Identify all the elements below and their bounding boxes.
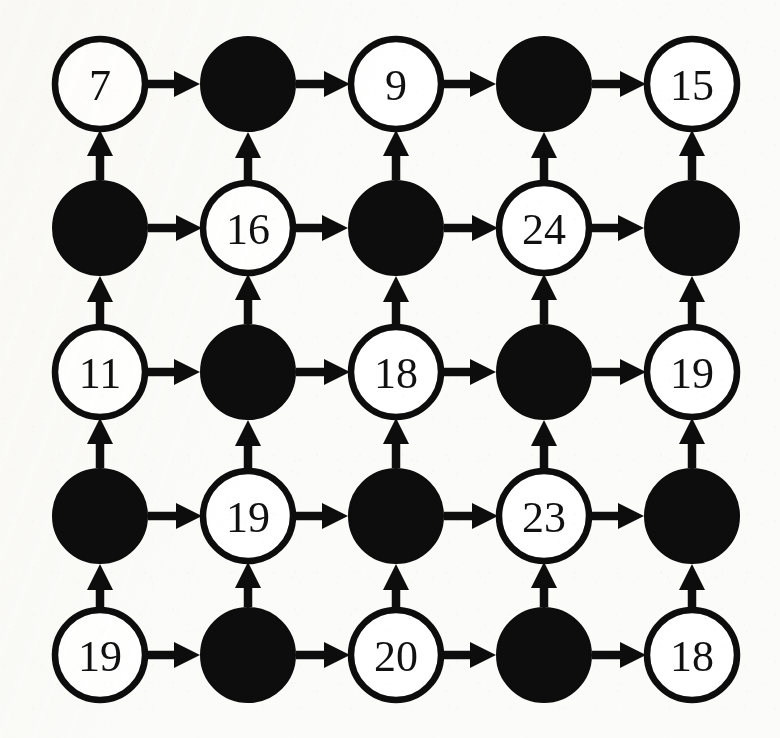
graph-node-filled[interactable] [497,608,591,702]
edge-horizontal-r5c2-to-r5c3 [296,642,350,668]
graph-node-filled[interactable] [201,608,295,702]
edge-horizontal-r5c1-to-r5c2 [146,642,200,668]
edge-vertical-r3c5-to-r2c5 [679,276,705,326]
graph-node-open[interactable]: 19 [647,327,737,417]
node-value-label: 11 [79,349,121,398]
node-value-label: 24 [522,205,566,254]
edge-vertical-r5c5-to-r4c5 [679,564,705,609]
graph-node-filled[interactable] [497,325,591,419]
graph-node-open[interactable]: 20 [351,610,441,700]
edge-vertical-r4c3-to-r3c3 [383,418,409,468]
edge-horizontal-r2c1-to-r2c2 [148,215,202,241]
graph-node-open[interactable]: 7 [55,39,145,129]
graph-node-filled[interactable] [53,181,147,275]
graph-node-filled[interactable] [645,469,739,563]
graph-node-filled[interactable] [53,469,147,563]
node-circle-filled [201,325,295,419]
graph-node-filled[interactable] [349,469,443,563]
node-value-label: 18 [374,349,418,398]
edge-vertical-r5c4-to-r4c4 [531,562,557,607]
graph-node-open[interactable]: 9 [351,39,441,129]
edge-horizontal-r2c2-to-r2c3 [294,215,348,241]
edge-horizontal-r2c3-to-r2c4 [444,215,498,241]
graph-node-filled[interactable] [645,181,739,275]
node-circle-filled [201,37,295,131]
graph-node-open[interactable]: 15 [647,39,737,129]
node-circle-filled [53,469,147,563]
node-circle-filled [201,608,295,702]
graph-node-filled[interactable] [201,37,295,131]
node-circle-filled [53,181,147,275]
graph-node-open[interactable]: 23 [499,471,589,561]
grid-graph-diagram: 791516241118191923192018 [0,0,780,738]
node-value-label: 20 [374,632,418,681]
edge-horizontal-r4c1-to-r4c2 [148,503,202,529]
edge-vertical-r4c2-to-r3c2 [235,420,261,470]
graph-node-filled[interactable] [201,325,295,419]
edge-horizontal-r1c2-to-r1c3 [296,71,350,97]
graph-node-filled[interactable] [349,181,443,275]
node-circle-filled [645,469,739,563]
edge-vertical-r3c1-to-r2c1 [87,276,113,326]
edge-vertical-r2c1-to-r1c1 [87,130,113,180]
edge-horizontal-r3c2-to-r3c3 [296,359,350,385]
graph-node-open[interactable]: 19 [55,610,145,700]
graph-node-open[interactable]: 11 [55,327,145,417]
graph-node-open[interactable]: 24 [499,183,589,273]
node-circle-filled [349,469,443,563]
node-value-label: 19 [670,349,714,398]
node-circle-filled [497,37,591,131]
edge-vertical-r2c2-to-r1c2 [235,132,261,182]
edge-vertical-r5c1-to-r4c1 [87,564,113,609]
edge-vertical-r5c2-to-r4c2 [235,562,261,607]
node-value-label: 16 [226,205,270,254]
edge-horizontal-r5c3-to-r5c4 [442,642,496,668]
graph-node-open[interactable]: 18 [351,327,441,417]
graph-node-open[interactable]: 18 [647,610,737,700]
edge-horizontal-r5c4-to-r5c5 [592,642,646,668]
node-value-label: 23 [522,493,566,542]
edge-horizontal-r3c4-to-r3c5 [592,359,646,385]
edge-vertical-r2c5-to-r1c5 [679,130,705,180]
graph-canvas: 791516241118191923192018 [0,0,780,738]
edge-vertical-r2c4-to-r1c4 [531,132,557,182]
node-value-label: 18 [670,632,714,681]
graph-node-open[interactable]: 19 [203,471,293,561]
node-value-label: 19 [78,632,122,681]
edge-horizontal-r3c1-to-r3c2 [146,359,200,385]
node-value-label: 19 [226,493,270,542]
edge-horizontal-r1c1-to-r1c2 [146,71,200,97]
node-value-label: 15 [670,61,714,110]
node-circle-filled [497,325,591,419]
edge-horizontal-r4c3-to-r4c4 [444,503,498,529]
edge-vertical-r3c3-to-r2c3 [383,276,409,326]
node-circle-filled [497,608,591,702]
edge-vertical-r2c3-to-r1c3 [383,130,409,180]
node-circle-filled [645,181,739,275]
edge-horizontal-r1c4-to-r1c5 [592,71,646,97]
edge-vertical-r3c4-to-r2c4 [531,274,557,324]
edge-vertical-r4c5-to-r3c5 [679,418,705,468]
node-circle-filled [349,181,443,275]
graph-node-filled[interactable] [497,37,591,131]
edge-vertical-r4c1-to-r3c1 [87,418,113,468]
edge-horizontal-r4c4-to-r4c5 [590,503,644,529]
edge-horizontal-r1c3-to-r1c4 [442,71,496,97]
edge-horizontal-r3c3-to-r3c4 [442,359,496,385]
edge-horizontal-r4c2-to-r4c3 [294,503,348,529]
edge-horizontal-r2c4-to-r2c5 [590,215,644,241]
edge-vertical-r5c3-to-r4c3 [383,564,409,609]
graph-node-open[interactable]: 16 [203,183,293,273]
node-value-label: 7 [89,61,111,110]
node-value-label: 9 [385,61,407,110]
edge-vertical-r4c4-to-r3c4 [531,420,557,470]
edge-vertical-r3c2-to-r2c2 [235,274,261,324]
